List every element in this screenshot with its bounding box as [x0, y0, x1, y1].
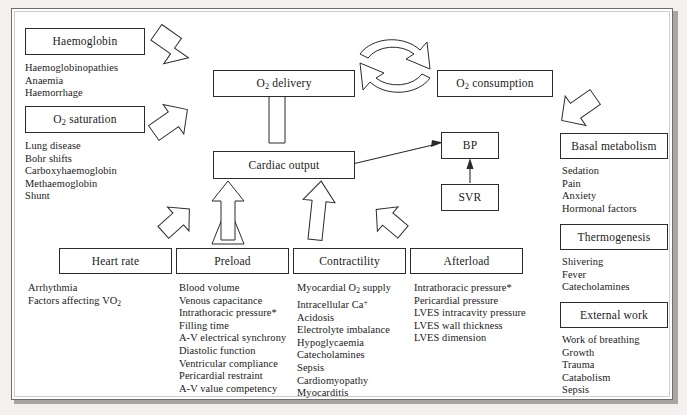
- list-item: Bohr shifts: [25, 153, 117, 166]
- list-item: Acidosis: [297, 312, 391, 325]
- list-item: Electrolyte imbalance: [297, 324, 391, 337]
- list-item: Myocardial O2 supply: [297, 282, 391, 297]
- arrow-basal-metabolism-to-o2-consumption: [551, 82, 605, 135]
- arrow-heart-rate-to-cardiac-output: [153, 197, 200, 244]
- box-basal-metabolism[interactable]: Basal metabolism: [560, 133, 668, 159]
- list-item: Sepsis: [297, 362, 391, 375]
- list-item: Haemorrhage: [25, 87, 118, 100]
- list-o2-saturation: Lung diseaseBohr shiftsCarboxyhaemoglobi…: [25, 140, 117, 203]
- arrow-o2-saturation-to-o2-delivery: [143, 95, 197, 148]
- diagram-sheet: Haemoglobin O2 saturation O2 delivery O2…: [11, 8, 671, 398]
- box-thermogenesis-label: Thermogenesis: [578, 231, 651, 244]
- list-item: Intrathoracic pressure*: [179, 307, 286, 320]
- list-item: Diastolic function: [179, 345, 286, 358]
- box-thermogenesis[interactable]: Thermogenesis: [560, 224, 668, 250]
- list-item: Methaemoglobin: [25, 178, 117, 191]
- superscript-plus: +: [364, 298, 368, 307]
- arrowhead-svr-bp: [467, 158, 474, 169]
- list-basal-metabolism: SedationPainAnxietyHormonal factors: [562, 165, 637, 215]
- list-item: Pericardial restraint: [179, 370, 286, 383]
- list-preload: Blood volumeVenous capacitanceIntrathora…: [179, 282, 286, 395]
- box-o2-delivery[interactable]: O2 delivery: [213, 70, 355, 97]
- box-o2-saturation-label: O2 saturation: [53, 113, 116, 127]
- list-item: Haemoglobinopathies: [25, 62, 118, 75]
- list-item: Ventricular compliance: [179, 358, 286, 371]
- list-item: Myocarditis: [297, 387, 391, 398]
- list-afterload: Intrathoracic pressure*Pericardial press…: [414, 282, 526, 345]
- list-item: LVES intracavity pressure: [414, 307, 526, 320]
- list-item: Shivering: [562, 256, 630, 269]
- list-item: A-V value competency: [179, 383, 286, 396]
- arrow-haemoglobin-to-o2-delivery: [144, 24, 195, 73]
- list-item: Anaemia: [25, 75, 118, 88]
- box-afterload-label: Afterload: [444, 255, 490, 268]
- list-item: Trauma: [562, 359, 640, 372]
- box-bp[interactable]: BP: [441, 132, 499, 159]
- page-canvas: Haemoglobin O2 saturation O2 delivery O2…: [0, 0, 687, 415]
- list-item: Sepsis: [562, 384, 640, 397]
- list-item: Factors affecting VO2: [28, 295, 121, 310]
- box-bp-label: BP: [463, 139, 477, 152]
- list-item: Growth: [562, 347, 640, 360]
- list-thermogenesis: ShiveringFeverCatecholamines: [562, 256, 630, 294]
- list-contractility: Myocardial O2 supplyIntracellular Ca+Aci…: [297, 282, 391, 398]
- list-item: Blood volume: [179, 282, 286, 295]
- subscript-two: 2: [117, 298, 121, 307]
- box-haemoglobin[interactable]: Haemoglobin: [25, 28, 145, 55]
- list-item: Catabolism: [562, 372, 640, 385]
- list-item: Cardiomyopathy: [297, 375, 391, 388]
- list-item: Venous capacitance: [179, 295, 286, 308]
- arrow-preload-shaft: [212, 181, 244, 240]
- list-item: Pain: [562, 178, 637, 191]
- box-o2-consumption[interactable]: O2 consumption: [437, 70, 553, 97]
- list-item: LVES dimension: [414, 332, 526, 345]
- box-svr-label: SVR: [459, 191, 482, 204]
- box-preload[interactable]: Preload: [176, 248, 289, 274]
- list-item: Pericardial pressure: [414, 295, 526, 308]
- list-item: Fever: [562, 269, 630, 282]
- box-svr[interactable]: SVR: [441, 184, 499, 211]
- list-item: Intrathoracic pressure*: [414, 282, 526, 295]
- arrow-preload-to-cardiac-output: [212, 204, 244, 244]
- box-heart-rate-label: Heart rate: [92, 255, 140, 268]
- box-haemoglobin-label: Haemoglobin: [53, 35, 118, 48]
- line-cardiac-output-to-bp: [344, 144, 437, 166]
- list-item: Intracellular Ca+: [297, 297, 391, 311]
- arrow-cycle-bottom: [360, 63, 430, 92]
- list-external-work: Work of breathingGrowthTraumaCatabolismS…: [562, 334, 640, 397]
- box-basal-metabolism-label: Basal metabolism: [571, 140, 656, 153]
- box-cardiac-output-label: Cardiac output: [249, 159, 320, 172]
- box-o2-consumption-label: O2 consumption: [456, 77, 534, 91]
- list-item: LVES wall thickness: [414, 320, 526, 333]
- list-item: Catecholamines: [297, 349, 391, 362]
- box-cardiac-output[interactable]: Cardiac output: [213, 151, 355, 179]
- list-item: Work of breathing: [562, 334, 640, 347]
- list-item: Carboxyhaemoglobin: [25, 165, 117, 178]
- box-o2-delivery-label: O2 delivery: [256, 77, 311, 91]
- list-item: Shunt: [25, 190, 117, 203]
- box-contractility-label: Contractility: [319, 255, 380, 268]
- box-o2-saturation[interactable]: O2 saturation: [25, 106, 145, 133]
- arrow-afterload-to-cardiac-output: [366, 197, 413, 244]
- list-item: A-V electrical synchrony: [179, 332, 286, 345]
- box-afterload[interactable]: Afterload: [410, 248, 523, 274]
- box-contractility[interactable]: Contractility: [293, 248, 406, 274]
- box-heart-rate[interactable]: Heart rate: [59, 248, 172, 274]
- arrow-contractility-to-cardiac-output: [299, 179, 337, 241]
- list-haemoglobin: HaemoglobinopathiesAnaemiaHaemorrhage: [25, 62, 118, 100]
- box-preload-label: Preload: [214, 255, 251, 268]
- list-item: Hormonal factors: [562, 203, 637, 216]
- subscript-two: 2: [356, 286, 360, 295]
- arrow-cycle-top: [360, 40, 430, 69]
- list-item: Hypoglycaemia: [297, 337, 391, 350]
- box-external-work[interactable]: External work: [560, 302, 668, 328]
- list-item: Catecholamines: [562, 281, 630, 294]
- list-item: Lung disease: [25, 140, 117, 153]
- list-item: Anxiety: [562, 190, 637, 203]
- box-external-work-label: External work: [580, 309, 648, 322]
- list-item: Arrhythmia: [28, 282, 121, 295]
- list-item: Filling time: [179, 320, 286, 333]
- list-item: Sedation: [562, 165, 637, 178]
- list-heart-rate: ArrhythmiaFactors affecting VO2: [28, 282, 121, 310]
